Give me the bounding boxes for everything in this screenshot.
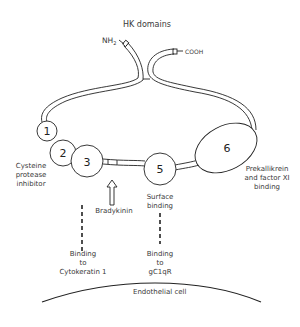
endothelial-cell-label: Endothelial cell xyxy=(133,288,185,297)
n-terminus-label: NH2 xyxy=(102,36,116,48)
gc1qr-binding-label: Binding to gC1qR xyxy=(143,250,177,277)
domain-6-number: 6 xyxy=(224,142,231,155)
domain-3-number: 3 xyxy=(84,156,91,169)
diagram-title: HK domains xyxy=(123,20,171,29)
linker-3-5-bottom xyxy=(103,164,145,166)
domain-2-number: 2 xyxy=(60,147,67,160)
c-terminus-cap xyxy=(173,49,177,54)
hk-chain-right-inner xyxy=(153,54,256,130)
prekallikrein-label: Prekallikrein and factor XI binding xyxy=(241,165,293,192)
hk-chain-right-outer xyxy=(148,49,252,130)
c-terminus-label: COOH xyxy=(185,47,203,56)
bradykinin-label: Bradykinin xyxy=(95,207,133,216)
bradykinin-arrow-icon xyxy=(107,180,117,205)
domain-5-number: 5 xyxy=(157,163,164,176)
hk-chain-left-inner xyxy=(46,43,143,122)
hk-chain-left-outer xyxy=(42,46,139,122)
nh2-leader xyxy=(119,40,124,44)
linker-5-6-top xyxy=(175,160,198,165)
linker-3-5-top xyxy=(103,159,145,161)
domain-1-number: 1 xyxy=(44,125,51,138)
surface-binding-label: Surface binding xyxy=(142,193,178,211)
cytokeratin-binding-label: Binding to Cytokeratin 1 xyxy=(59,250,107,277)
cysteine-protease-label: Cysteine protease inhibitor xyxy=(14,162,48,189)
linker-5-6-bottom xyxy=(175,165,199,170)
